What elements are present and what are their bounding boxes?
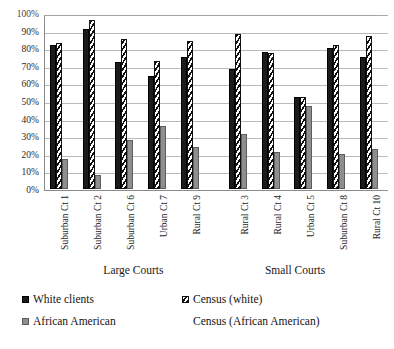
- group-caption: Large Courts: [103, 264, 163, 276]
- x-axis-tick: Rural Ct 9: [175, 193, 208, 265]
- x-axis-tick-text: Suburban Ct 8: [339, 195, 349, 250]
- y-axis-tick-label: 30%: [22, 133, 39, 143]
- bar-group: [258, 15, 291, 189]
- x-axis-tick-text: Rural Ct 4: [273, 195, 283, 235]
- bar-group: [225, 15, 258, 189]
- x-axis-tick: Urban Ct 5: [290, 193, 323, 265]
- grouped-bar-chart: 100%90%80%70%60%50%40%30%20%10%0% Suburb…: [0, 11, 394, 349]
- chart-legend: White clientsCensus (white)African Ameri…: [22, 288, 382, 332]
- bar-group: [355, 15, 388, 189]
- bar-group: [176, 15, 209, 189]
- bar-group: [111, 15, 144, 189]
- legend-label-white-clients: White clients: [33, 293, 94, 305]
- x-axis-tick-text: Suburban Ct 1: [60, 195, 70, 250]
- plot-wrapper: [44, 15, 388, 191]
- bar-census-african-american: [280, 150, 286, 189]
- y-axis-tick-label: 100%: [17, 10, 39, 20]
- y-axis-tick-label: 0%: [26, 186, 39, 196]
- bar-census-white: [89, 20, 95, 189]
- legend-label-census-white: Census (white): [193, 293, 262, 305]
- x-axis-tick: Rural Ct 4: [257, 193, 290, 265]
- y-axis-tick-label: 70%: [22, 63, 39, 73]
- bar-census-african-american: [199, 168, 205, 189]
- y-axis-tick-label: 80%: [22, 45, 39, 55]
- bar-census-african-american: [68, 161, 74, 189]
- x-axis-tick: Suburban Ct 6: [110, 193, 143, 265]
- y-axis-tick-label: 90%: [22, 28, 39, 38]
- y-axis-tick-label: 40%: [22, 116, 39, 126]
- bar-group: [46, 15, 79, 189]
- x-axis-tick-text: Urban Ct 7: [159, 195, 169, 237]
- x-axis-tick: Suburban Ct 8: [322, 193, 355, 265]
- y-axis-labels: 100%90%80%70%60%50%40%30%20%10%0%: [0, 15, 42, 191]
- y-axis-tick-label: 60%: [22, 81, 39, 91]
- x-axis-tick-labels: Suburban Ct 1Suburban Ct 2Suburban Ct 6U…: [44, 193, 388, 265]
- legend-item-census-african-american[interactable]: Census (African American): [182, 315, 382, 327]
- legend-label-african-american: African American: [33, 315, 116, 327]
- legend-item-census-white[interactable]: Census (white): [182, 293, 382, 305]
- cut-off-title-strip: [0, 0, 394, 11]
- x-axis-tick-text: Rural Ct 3: [240, 195, 250, 235]
- legend-row: African AmericanCensus (African American…: [22, 310, 382, 332]
- legend-item-african-american[interactable]: African American: [22, 315, 182, 327]
- legend-swatch-white-clients: [22, 296, 29, 303]
- group-separator: [209, 15, 225, 189]
- legend-swatch-african-american: [22, 318, 29, 325]
- bar-census-african-american: [133, 168, 139, 189]
- plot-area: [44, 15, 388, 191]
- x-axis-tick: Rural Ct 3: [224, 193, 257, 265]
- x-axis-tick-text: Suburban Ct 2: [93, 195, 103, 250]
- group-captions: Large CourtsSmall Courts: [44, 264, 388, 284]
- x-axis-tick-text: Suburban Ct 6: [126, 195, 136, 250]
- bar-group: [323, 15, 356, 189]
- y-axis-tick-label: 10%: [22, 169, 39, 179]
- x-axis-tick-text: Urban Ct 5: [306, 195, 316, 237]
- bar-census-african-american: [378, 170, 384, 189]
- bar-census-african-american: [247, 171, 253, 189]
- bar-group: [290, 15, 323, 189]
- x-axis-tick: Rural Ct 10: [355, 193, 388, 265]
- bar-census-african-american: [345, 161, 351, 189]
- x-axis-tick-text: Rural Ct 10: [372, 195, 382, 239]
- y-axis-tick-label: 20%: [22, 151, 39, 161]
- bar-census-african-american: [166, 136, 172, 189]
- legend-item-white-clients[interactable]: White clients: [22, 293, 182, 305]
- x-axis-tick-text: Rural Ct 9: [192, 195, 202, 235]
- bar-census-african-american: [312, 103, 318, 189]
- legend-swatch-census-white: [182, 296, 189, 303]
- legend-swatch-census-african-american: [182, 318, 189, 325]
- legend-label-census-african-american: Census (African American): [193, 315, 319, 327]
- x-axis-tick: Urban Ct 7: [142, 193, 175, 265]
- bar-groups: [46, 15, 388, 189]
- y-axis-tick-label: 50%: [22, 98, 39, 108]
- bar-census-african-american: [101, 184, 107, 189]
- group-caption: Small Courts: [265, 264, 325, 276]
- x-tick-separator: [208, 193, 224, 265]
- bar-group: [144, 15, 177, 189]
- bar-group: [79, 15, 112, 189]
- x-axis-tick: Suburban Ct 1: [44, 193, 77, 265]
- x-axis-tick: Suburban Ct 2: [77, 193, 110, 265]
- legend-row: White clientsCensus (white): [22, 288, 382, 310]
